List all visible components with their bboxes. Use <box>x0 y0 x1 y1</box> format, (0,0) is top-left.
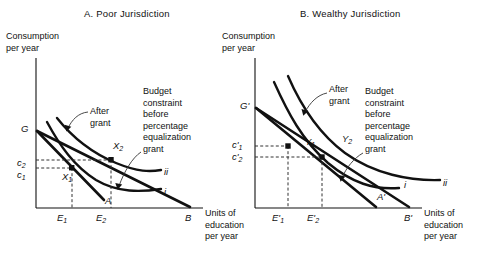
panel-b-budget-line-before <box>256 108 409 207</box>
panel-a-after-grant-leader <box>68 112 88 128</box>
figure-vector-layer <box>0 0 478 264</box>
panel-b-after-grant-leader <box>305 93 327 112</box>
panel-a-plot <box>36 58 203 208</box>
panel-b-indifference-curve-ii <box>288 76 440 180</box>
panel-a-indifference-curve-ii <box>57 118 161 171</box>
panel-a-marker-x1 <box>69 165 74 170</box>
panel-b-marker-y1 <box>285 143 290 148</box>
figure-canvas: A. Poor Jurisdiction B. Wealthy Jurisdic… <box>0 0 478 264</box>
panel-b-marker-y2 <box>319 154 324 159</box>
panel-a-marker-x2 <box>108 157 113 162</box>
panel-b-plot <box>255 58 440 208</box>
